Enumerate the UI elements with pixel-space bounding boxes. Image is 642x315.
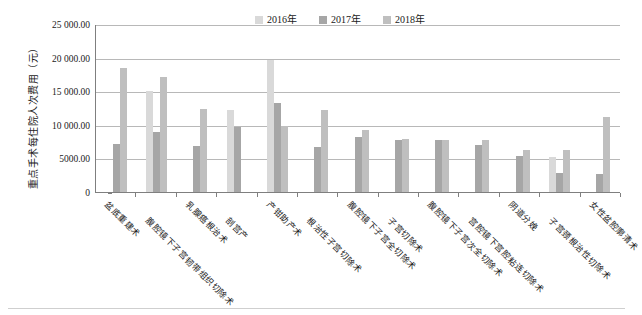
x-axis-tick-mark (620, 193, 621, 197)
bar-group (459, 25, 499, 192)
bar[interactable] (556, 173, 563, 192)
bottom-divider (8, 308, 625, 309)
x-axis-tick-mark (337, 193, 338, 197)
x-axis-tick-mark (378, 193, 379, 197)
x-axis-tick-mark (216, 193, 217, 197)
x-axis-tick-mark (539, 193, 540, 197)
bar[interactable] (120, 68, 127, 192)
bar[interactable] (355, 137, 362, 192)
x-axis-tick-mark (580, 193, 581, 197)
bar-group (217, 25, 257, 192)
x-axis-tick-mark (176, 193, 177, 197)
bar-group (499, 25, 539, 192)
bar-group (378, 25, 418, 192)
bar-group (419, 25, 459, 192)
x-axis-tick-mark (257, 193, 258, 197)
bar-group (136, 25, 176, 192)
plot-area (95, 25, 620, 193)
x-axis-tick-mark (418, 193, 419, 197)
bar[interactable] (475, 145, 482, 192)
bar[interactable] (402, 139, 409, 192)
x-axis-tick-mark (499, 193, 500, 197)
bar[interactable] (193, 146, 200, 192)
y-axis-tick-label: 15 000.00 (52, 87, 90, 97)
bar[interactable] (362, 130, 369, 192)
bar-groups (96, 25, 620, 192)
bar-group (298, 25, 338, 192)
x-axis-tick-mark (458, 193, 459, 197)
bar[interactable] (113, 144, 120, 192)
x-axis-tick-label: 盆底重建术 (103, 198, 144, 239)
bar-group (96, 25, 136, 192)
bar[interactable] (146, 91, 153, 192)
bar[interactable] (234, 127, 241, 192)
bar-group (539, 25, 579, 192)
bar-group (177, 25, 217, 192)
bar[interactable] (596, 174, 603, 192)
bar[interactable] (523, 150, 530, 192)
legend-swatch-icon (255, 16, 263, 24)
y-axis-tick-labels: 05000.0010 000.0015 000.0020 000.0025 00… (18, 0, 90, 315)
bar[interactable] (314, 147, 321, 192)
bar[interactable] (603, 117, 610, 192)
bar-group (580, 25, 620, 192)
bar[interactable] (395, 140, 402, 192)
x-axis-tick-label: 女性盆腔廓清术 (587, 198, 642, 253)
y-axis-tick-label: 5000.00 (59, 154, 90, 164)
legend-item[interactable]: 2016年 (255, 15, 297, 25)
y-axis-tick-label: 20 000.00 (52, 54, 90, 64)
bar[interactable] (482, 140, 489, 192)
legend-item[interactable]: 2018年 (383, 15, 425, 25)
legend-item[interactable]: 2017年 (319, 15, 361, 25)
bar[interactable] (516, 156, 523, 192)
x-axis-tick-mark (297, 193, 298, 197)
y-axis-tick-label: 25 000.00 (52, 20, 90, 30)
legend-label: 2016年 (267, 15, 297, 25)
legend-swatch-icon (383, 16, 391, 24)
x-axis-tick-label: 阴道分娩 (507, 198, 542, 233)
bar[interactable] (321, 110, 328, 192)
bar[interactable] (442, 140, 449, 192)
legend-label: 2018年 (395, 15, 425, 25)
y-axis-tick-label: 10 000.00 (52, 121, 90, 131)
bar[interactable] (281, 126, 288, 192)
x-axis-tick-label: 根治性子宫切除术 (305, 214, 366, 275)
bar[interactable] (160, 77, 167, 192)
bar-group (257, 25, 297, 192)
legend-swatch-icon (319, 16, 327, 24)
bar[interactable] (274, 103, 281, 192)
legend-label: 2017年 (331, 15, 361, 25)
x-axis-tick-mark (135, 193, 136, 197)
x-axis-tick-label: 产钳助产术 (264, 198, 305, 239)
bar[interactable] (227, 110, 234, 192)
bar[interactable] (563, 150, 570, 192)
bar[interactable] (549, 157, 556, 192)
bar[interactable] (267, 60, 274, 192)
y-axis-tick-label: 0 (85, 188, 90, 198)
bar[interactable] (435, 140, 442, 192)
bar[interactable] (200, 109, 207, 192)
y-axis-tick-mark (108, 193, 112, 194)
chart-legend: 2016年2017年2018年 (255, 15, 425, 25)
bar-group (338, 25, 378, 192)
bar[interactable] (153, 132, 160, 192)
